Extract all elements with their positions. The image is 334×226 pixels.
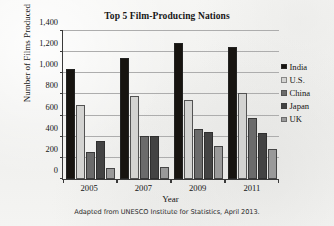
y-axis-tick-label: 400 (45, 123, 58, 132)
x-axis-tick-label-2007: 2007 (116, 183, 170, 193)
x-axis-tick-label-2005: 2005 (62, 183, 116, 193)
x-axis-tick-label-2009: 2009 (171, 183, 225, 193)
legend-label: Japan (290, 101, 310, 111)
y-axis-tick-label: 600 (45, 102, 58, 111)
bars-layer (63, 31, 279, 179)
legend-item-japan[interactable]: Japan (281, 100, 333, 113)
x-axis-tick-labels: 2005200720092011 (62, 183, 279, 193)
bar-china-2005[interactable] (86, 152, 95, 179)
legend-item-india[interactable]: India (281, 60, 333, 73)
bar-group-2011 (225, 31, 279, 179)
bar-uk-2011[interactable] (268, 149, 277, 179)
plot-area: 02004006008001,0001,2001,400 (62, 31, 279, 180)
y-axis-tick-label: 800 (45, 81, 58, 90)
legend-item-us[interactable]: U.S. (281, 73, 333, 86)
legend-item-china[interactable]: China (281, 86, 333, 99)
bar-uk-2009[interactable] (214, 146, 223, 179)
bar-japan-2007[interactable] (150, 136, 159, 179)
bar-chart: Top 5 Film-Producing Nations Number of F… (0, 0, 334, 226)
chart-caption: Adapted from UNESCO Institute for Statis… (0, 208, 334, 216)
bar-india-2011[interactable] (228, 47, 237, 179)
bar-us-2011[interactable] (238, 93, 247, 179)
bar-group-2009 (171, 31, 225, 179)
legend-swatch-icon (281, 77, 287, 83)
y-axis-tick-label: 1,000 (39, 60, 58, 69)
legend-label: India (290, 62, 308, 72)
bar-uk-2007[interactable] (160, 167, 169, 179)
legend-label: China (290, 88, 311, 98)
bar-india-2007[interactable] (120, 58, 129, 179)
bar-india-2009[interactable] (174, 43, 183, 179)
bar-group-2007 (117, 31, 171, 179)
bar-japan-2005[interactable] (96, 141, 105, 179)
bar-india-2005[interactable] (66, 69, 75, 179)
legend-swatch-icon (281, 103, 287, 109)
x-axis-title: Year (62, 194, 279, 204)
legend-swatch-icon (281, 90, 287, 96)
legend-swatch-icon (281, 64, 287, 70)
bar-china-2011[interactable] (248, 118, 257, 179)
bar-us-2007[interactable] (130, 96, 139, 179)
y-axis-title: Number of Films Produced (22, 0, 32, 128)
legend-item-uk[interactable]: UK (281, 113, 333, 126)
x-axis-tick-label-2011: 2011 (225, 183, 279, 193)
y-axis-tick-label: 200 (45, 144, 58, 153)
legend-label: U.S. (290, 75, 305, 85)
bar-uk-2005[interactable] (106, 168, 115, 179)
bar-japan-2011[interactable] (258, 133, 267, 179)
legend-label: UK (290, 114, 302, 124)
bar-china-2007[interactable] (140, 136, 149, 179)
y-axis-tick-label: 0 (54, 166, 58, 175)
bar-us-2009[interactable] (184, 100, 193, 179)
y-axis-tick-label: 1,400 (39, 18, 58, 27)
bar-group-2005 (63, 31, 117, 179)
bar-japan-2009[interactable] (204, 132, 213, 179)
bar-us-2005[interactable] (76, 105, 85, 179)
legend: IndiaU.S.ChinaJapanUK (281, 60, 333, 126)
legend-swatch-icon (281, 117, 287, 123)
bar-china-2009[interactable] (194, 129, 203, 179)
y-axis-tick-label: 1,200 (39, 39, 58, 48)
